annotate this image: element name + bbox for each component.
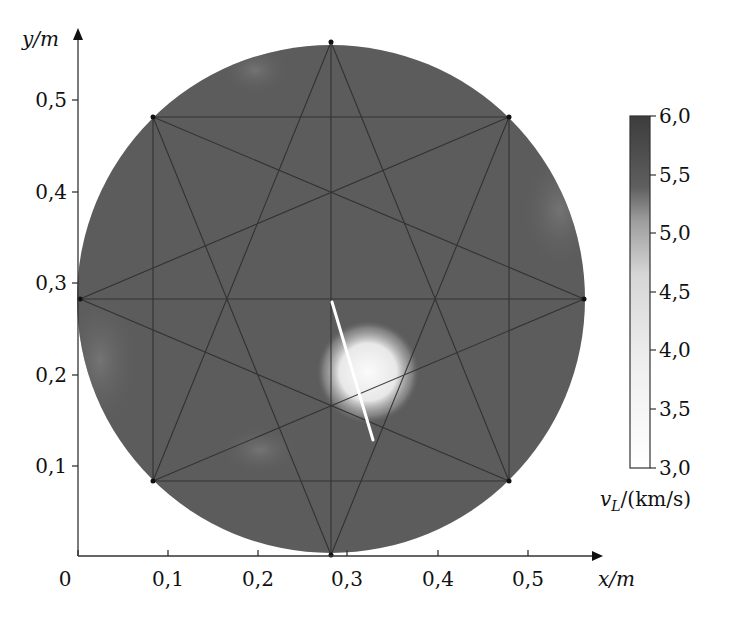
x-tick-label: 0,4 bbox=[422, 567, 454, 591]
sensor-marker bbox=[507, 115, 512, 120]
colorbar-tick-label: 4,0 bbox=[659, 338, 691, 362]
colorbar-tick-label: 3,0 bbox=[659, 456, 691, 480]
y-tick-label: 0,3 bbox=[35, 271, 67, 295]
x-tick-label: 0,2 bbox=[242, 567, 274, 591]
sensor-marker bbox=[507, 479, 512, 484]
sensor-marker bbox=[329, 40, 334, 45]
colorbar: 6,0 5,5 5,0 4,5 4,0 3,5 3,0 vL/(km/s) bbox=[600, 104, 691, 514]
y-tick-label: 0,1 bbox=[35, 454, 67, 478]
sensor-marker bbox=[151, 115, 156, 120]
x-tick-label: 0 bbox=[59, 567, 72, 591]
colorbar-label: vL/(km/s) bbox=[600, 487, 691, 514]
colorbar-tick-label: 3,5 bbox=[659, 397, 691, 421]
y-tick-label: 0,5 bbox=[35, 88, 67, 112]
x-axis-arrow-icon bbox=[592, 551, 603, 561]
colorbar-tick-label: 5,5 bbox=[659, 163, 691, 187]
y-tick-label: 0,2 bbox=[35, 363, 67, 387]
y-axis-label: y/m bbox=[21, 27, 59, 51]
x-axis-label: x/m bbox=[598, 567, 635, 591]
tomography-figure: 0 0,1 0,2 0,3 0,4 0,5 x/m 0,5 0,4 0,3 0,… bbox=[0, 0, 742, 618]
low-velocity-anomaly bbox=[316, 320, 420, 424]
colorbar-gradient bbox=[630, 116, 650, 468]
colorbar-tick-label: 5,0 bbox=[659, 221, 691, 245]
x-tick-label: 0,3 bbox=[331, 567, 363, 591]
sensor-marker bbox=[151, 479, 156, 484]
x-tick-label: 0,1 bbox=[152, 567, 184, 591]
colorbar-tick-label: 6,0 bbox=[659, 104, 691, 128]
sensor-marker bbox=[582, 297, 587, 302]
colorbar-tick-label: 4,5 bbox=[659, 280, 691, 304]
y-axis-arrow-icon bbox=[73, 28, 83, 40]
y-tick-label: 0,4 bbox=[35, 180, 67, 204]
sensor-marker bbox=[329, 553, 334, 558]
x-tick-label: 0,5 bbox=[512, 567, 544, 591]
